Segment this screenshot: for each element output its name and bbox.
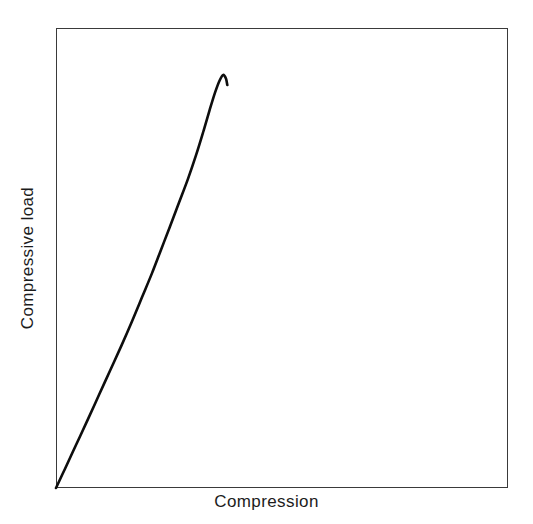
compressive-load-curve	[56, 75, 227, 488]
y-axis-label-container: Compressive load	[0, 0, 56, 516]
plot-area	[56, 28, 508, 488]
x-axis-label: Compression	[0, 492, 533, 512]
figure-container: Compressive load Compression	[0, 0, 533, 524]
y-axis-label: Compressive load	[18, 187, 38, 329]
